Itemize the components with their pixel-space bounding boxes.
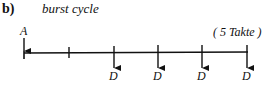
label-d: D xyxy=(241,69,251,83)
label-a: A xyxy=(19,24,28,38)
d-arrow-2: D xyxy=(152,45,162,83)
d-arrow-1: D xyxy=(108,46,118,83)
label-d: D xyxy=(152,69,162,83)
label-d: D xyxy=(196,69,206,83)
d-arrow-4: D xyxy=(241,45,251,83)
timeline-axis xyxy=(24,52,248,53)
d-arrow-3: D xyxy=(196,45,206,83)
label-d: D xyxy=(108,69,118,83)
timeline-diagram: A D D D D xyxy=(0,0,272,85)
